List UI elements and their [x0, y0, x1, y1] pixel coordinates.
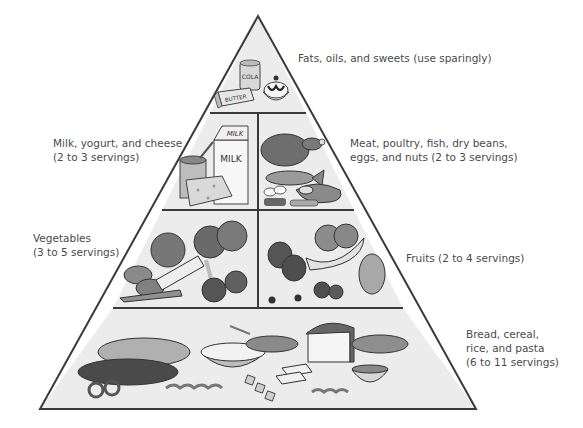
tomato-icon [225, 271, 247, 293]
milk-top-label: MILK [227, 130, 245, 138]
beans-icon [264, 198, 286, 206]
dark-bread-icon [78, 359, 178, 385]
tomato-icon [202, 278, 226, 302]
orange-icon [334, 224, 358, 248]
broccoli-icon [217, 221, 247, 251]
label-grains-line1: Bread, cereal, [466, 327, 559, 341]
strawberry-icon [314, 282, 330, 298]
cereal-bowl-icon [246, 336, 298, 352]
label-vegetables: Vegetables (3 to 5 servings) [33, 231, 119, 259]
label-grains-line3: (6 to 11 servings) [466, 355, 559, 369]
label-vegetables-line2: (3 to 5 servings) [33, 245, 119, 259]
cola-can-icon: COLA [240, 60, 260, 90]
label-fats: Fats, oils, and sweets (use sparingly) [298, 51, 492, 65]
label-grains-line2: rice, and pasta [466, 341, 559, 355]
label-protein-line2: eggs, and nuts (2 to 3 servings) [350, 150, 518, 164]
label-vegetables-line1: Vegetables [33, 231, 119, 245]
label-protein-line1: Meat, poultry, fish, dry beans, [350, 136, 518, 150]
nuts-icon [290, 200, 318, 206]
cherry-icon [269, 297, 276, 304]
label-fruits: Fruits (2 to 4 servings) [406, 251, 524, 265]
label-fats-line1: Fats, oils, and sweets (use sparingly) [298, 51, 492, 65]
baguette-icon [352, 335, 408, 353]
milk-front-label: MILK [220, 154, 242, 164]
label-fruits-line1: Fruits (2 to 4 servings) [406, 251, 524, 265]
label-dairy: Milk, yogurt, and cheese (2 to 3 serving… [53, 136, 182, 164]
label-grains: Bread, cereal, rice, and pasta (6 to 11 … [466, 327, 559, 369]
bread-loaf-icon [306, 323, 354, 362]
label-protein: Meat, poultry, fish, dry beans, eggs, an… [350, 136, 518, 164]
apple-icon [282, 255, 306, 281]
grapes-icon [359, 254, 385, 294]
cola-label: COLA [242, 73, 259, 80]
strawberry-icon [329, 285, 343, 299]
label-dairy-line1: Milk, yogurt, and cheese [53, 136, 182, 150]
cabbage-icon [151, 233, 185, 267]
cherry-icon [295, 295, 302, 302]
label-dairy-line2: (2 to 3 servings) [53, 150, 182, 164]
